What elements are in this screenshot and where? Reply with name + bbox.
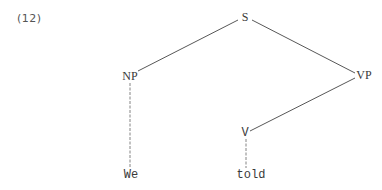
leaf-we: We xyxy=(124,169,138,181)
tree-edges xyxy=(0,0,382,190)
node-np: NP xyxy=(122,70,137,82)
edge-s-vp xyxy=(252,20,355,73)
syntax-tree-diagram: (12) S NP VP V We told xyxy=(0,0,382,190)
node-v: V xyxy=(241,127,248,139)
node-vp: VP xyxy=(356,69,371,81)
edge-s-np xyxy=(138,20,238,71)
leaf-told: told xyxy=(237,169,266,181)
node-s: S xyxy=(242,11,249,23)
edge-vp-v xyxy=(250,78,355,131)
